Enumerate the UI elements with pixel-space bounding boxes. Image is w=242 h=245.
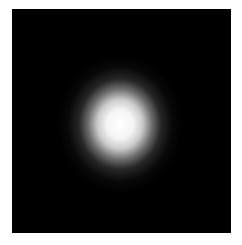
black-image-frame bbox=[12, 9, 231, 233]
bright-glow-spot bbox=[54, 57, 186, 197]
